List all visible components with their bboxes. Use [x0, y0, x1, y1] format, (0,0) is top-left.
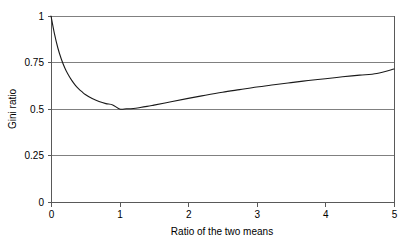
x-tick-label-5: 5	[392, 209, 398, 220]
x-axis-title: Ratio of the two means	[171, 226, 273, 237]
gini-ratio-line-chart: 1 0.75 0.5 0.25 0 0 1 2 3 4 5 Gini ratio…	[0, 0, 408, 246]
y-tick-label-1: 1	[38, 11, 44, 22]
y-axis-title: Gini ratio	[7, 89, 18, 129]
x-tick-label-2: 2	[186, 209, 192, 220]
y-tick-label-0_75: 0.75	[25, 57, 45, 68]
y-tick-label-0: 0	[38, 197, 44, 208]
x-tick-label-1: 1	[117, 209, 123, 220]
y-tick-marks	[48, 17, 52, 203]
x-tick-marks	[52, 203, 395, 207]
x-tick-labels: 0 1 2 3 4 5	[49, 209, 398, 220]
y-tick-label-0_25: 0.25	[25, 150, 45, 161]
x-tick-label-0: 0	[49, 209, 55, 220]
gridlines	[52, 17, 395, 156]
x-tick-label-3: 3	[255, 209, 261, 220]
y-tick-labels: 1 0.75 0.5 0.25 0	[25, 11, 45, 208]
x-tick-label-4: 4	[323, 209, 329, 220]
chart-figure: 1 0.75 0.5 0.25 0 0 1 2 3 4 5 Gini ratio…	[0, 0, 408, 246]
y-tick-label-0_5: 0.5	[30, 104, 44, 115]
